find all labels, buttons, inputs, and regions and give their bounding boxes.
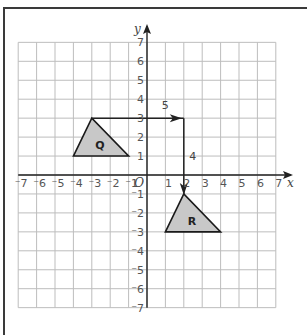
y-tick-label: 3 [137, 112, 144, 125]
x-tick-label: 7 [275, 177, 282, 190]
shape-label-q: Q [95, 139, 104, 152]
y-tick-label: 1 [137, 150, 144, 163]
x-tick-label: 5 [239, 177, 246, 190]
y-tick-label: ⁻3 [131, 226, 144, 239]
axes [18, 24, 293, 308]
x-tick-label: ⁻4 [70, 177, 83, 190]
x-axis-label: x [287, 176, 294, 190]
x-tick-label: 3 [202, 177, 209, 190]
x-tick-label: ⁻6 [33, 177, 46, 190]
x-tick-label: 4 [220, 177, 227, 190]
y-tick-label: ⁻6 [131, 283, 144, 296]
x-tick-label: 1 [165, 177, 172, 190]
x-tick-label: ⁻3 [88, 177, 101, 190]
x-tick-label: ⁻5 [52, 177, 65, 190]
y-tick-label: ⁻7 [131, 302, 144, 315]
x-tick-label: ⁻7 [15, 177, 28, 190]
origin-label: O [134, 176, 144, 190]
y-tick-label: ⁻2 [131, 207, 144, 220]
x-tick-label: 6 [257, 177, 264, 190]
y-tick-label: ⁻5 [131, 264, 144, 277]
y-tick-label: 7 [137, 36, 144, 49]
horizontal-translation-label: 5 [162, 99, 169, 112]
x-tick-label: 2 [183, 177, 190, 190]
y-tick-label: ⁻4 [131, 245, 144, 258]
y-tick-label: 2 [137, 131, 144, 144]
y-tick-label: 4 [137, 93, 144, 106]
coordinate-grid: QR⁻7⁻6⁻5⁻4⁻3⁻2⁻112345677654321⁻1⁻2⁻3⁻4⁻5… [0, 0, 307, 335]
x-tick-label: ⁻2 [107, 177, 120, 190]
labels-layer: QR⁻7⁻6⁻5⁻4⁻3⁻2⁻112345677654321⁻1⁻2⁻3⁻4⁻5… [15, 22, 294, 315]
diagram-canvas: QR⁻7⁻6⁻5⁻4⁻3⁻2⁻112345677654321⁻1⁻2⁻3⁻4⁻5… [0, 0, 307, 335]
y-tick-label: 6 [137, 55, 144, 68]
y-axis-label: y [133, 22, 141, 36]
vertical-translation-label: 4 [189, 150, 196, 163]
y-tick-label: 5 [137, 74, 144, 87]
shape-label-r: R [188, 215, 197, 228]
